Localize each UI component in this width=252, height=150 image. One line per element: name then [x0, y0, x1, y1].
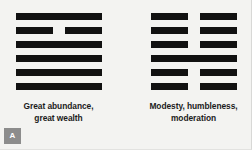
- line-segment-left: [151, 27, 188, 34]
- hexagram-left-caption-line-2: great wealth: [3, 113, 114, 125]
- line-segment-right: [200, 41, 237, 48]
- hexagram-right-line-6: [151, 83, 237, 90]
- hexagram-right-caption: Modesty, humbleness, moderation: [138, 101, 249, 124]
- hexagram-left-line-6: [16, 83, 102, 90]
- line-segment: [151, 55, 237, 62]
- hexagram-left-line-5: [16, 69, 102, 76]
- hexagram-figure-panel: Great abundance, great wealth Modesty, h…: [0, 0, 252, 150]
- line-segment: [16, 69, 102, 76]
- hexagram-right-caption-line-2: moderation: [138, 113, 249, 125]
- line-segment-right: [200, 83, 237, 90]
- line-segment-left: [151, 13, 188, 20]
- hexagram-right-line-4: [151, 55, 237, 62]
- line-segment: [16, 55, 102, 62]
- line-segment: [16, 83, 102, 90]
- hexagram-left: [16, 13, 102, 90]
- hexagram-left-line-1: [16, 13, 102, 20]
- hexagram-right-line-2: [151, 27, 237, 34]
- hexagram-left-line-2: [16, 27, 102, 34]
- line-segment-left: [151, 83, 188, 90]
- hexagram-column-left: Great abundance, great wealth: [2, 0, 115, 124]
- hexagram-columns: Great abundance, great wealth Modesty, h…: [0, 0, 252, 150]
- line-segment: [16, 13, 102, 20]
- line-segment-right: [200, 27, 237, 34]
- hexagram-left-line-4: [16, 55, 102, 62]
- line-segment-left: [151, 41, 188, 48]
- panel-label-badge: A: [4, 128, 21, 144]
- hexagram-right-line-5: [151, 69, 237, 76]
- hexagram-right-caption-line-1: Modesty, humbleness,: [138, 101, 249, 113]
- hexagram-left-caption-line-1: Great abundance,: [3, 101, 114, 113]
- hexagram-right: [151, 13, 237, 90]
- hexagram-left-caption: Great abundance, great wealth: [3, 101, 114, 124]
- hexagram-column-right: Modesty, humbleness, moderation: [137, 0, 250, 124]
- hexagram-right-line-3: [151, 41, 237, 48]
- line-segment-right: [65, 27, 102, 34]
- hexagram-left-line-3: [16, 41, 102, 48]
- line-segment: [16, 41, 102, 48]
- line-segment-left: [16, 27, 53, 34]
- line-segment-left: [151, 69, 188, 76]
- line-segment-right: [200, 69, 237, 76]
- hexagram-right-line-1: [151, 13, 237, 20]
- line-segment-right: [200, 13, 237, 20]
